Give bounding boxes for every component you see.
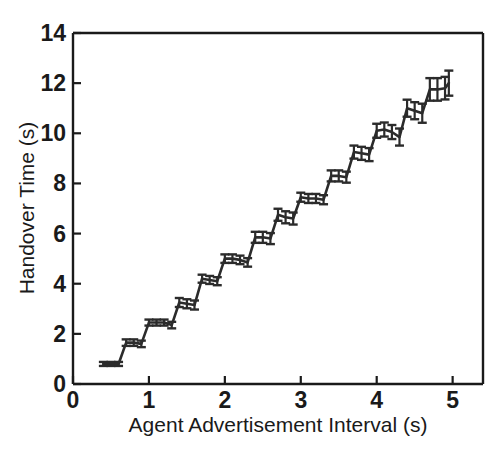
x-axis-title: Agent Advertisement Interval (s): [129, 413, 428, 436]
y-tick-label: 12: [40, 70, 66, 96]
y-tick-label: 4: [53, 271, 66, 297]
y-tick-label: 10: [40, 120, 66, 146]
x-tick-label: 1: [143, 387, 156, 413]
x-tick-label: 0: [67, 387, 80, 413]
y-tick-label: 8: [53, 170, 66, 196]
x-tick-label: 3: [294, 387, 307, 413]
chart-plot-area: 02468101214 012345 Handover Time (s) Age…: [0, 0, 504, 450]
y-tick-label: 2: [53, 321, 66, 347]
y-axis-title: Handover Time (s): [15, 122, 38, 295]
x-tick-label: 2: [218, 387, 231, 413]
figure-background: [0, 0, 504, 450]
y-tick-label: 0: [53, 371, 66, 397]
y-tick-label: 14: [40, 20, 66, 46]
y-tick-label: 6: [53, 221, 66, 247]
x-tick-label: 5: [446, 387, 459, 413]
chart-figure: 02468101214 012345 Handover Time (s) Age…: [0, 0, 504, 450]
x-tick-label: 4: [370, 387, 383, 413]
